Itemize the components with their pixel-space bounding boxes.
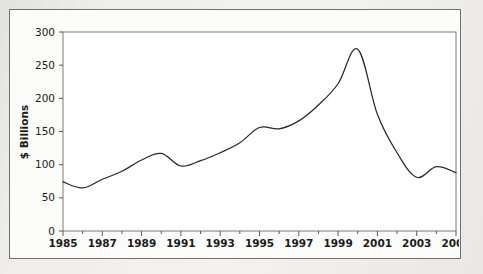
y-axis-tick-label: 250 bbox=[35, 59, 55, 71]
x-axis-tick-label: 2001 bbox=[363, 237, 392, 249]
figure-frame: 050100150200250300 198519871989199119931… bbox=[9, 9, 461, 259]
chart-screenshot: 050100150200250300 198519871989199119931… bbox=[0, 0, 483, 274]
y-axis-tick-label: 300 bbox=[35, 26, 55, 38]
x-axis-tick-label: 1985 bbox=[48, 237, 77, 249]
x-axis: 1985198719891991199319951997199920012003… bbox=[48, 231, 459, 249]
y-axis-tick-label: 0 bbox=[48, 225, 55, 237]
x-axis-tick-label: 1989 bbox=[127, 237, 156, 249]
x-axis-tick-label: 1995 bbox=[245, 237, 274, 249]
y-axis-title: $ Billions bbox=[18, 105, 30, 159]
y-axis-tick-label: 200 bbox=[35, 92, 55, 104]
x-axis-tick-label: 1997 bbox=[284, 237, 313, 249]
x-axis-tick-label: 1987 bbox=[88, 237, 117, 249]
x-axis-tick-label: 1999 bbox=[323, 237, 352, 249]
x-axis-tick-label: 2005 bbox=[441, 237, 459, 249]
plot-area-background bbox=[63, 32, 456, 231]
y-axis-tick-label: 150 bbox=[35, 125, 55, 137]
y-axis-tick-label: 100 bbox=[35, 158, 55, 170]
x-axis-tick-label: 2003 bbox=[402, 237, 431, 249]
x-axis-tick-label: 1991 bbox=[166, 237, 195, 249]
y-axis: 050100150200250300 bbox=[35, 26, 63, 237]
y-axis-tick-label: 50 bbox=[42, 191, 55, 203]
x-axis-tick-label: 1993 bbox=[206, 237, 235, 249]
line-chart: 050100150200250300 198519871989199119931… bbox=[10, 10, 459, 257]
